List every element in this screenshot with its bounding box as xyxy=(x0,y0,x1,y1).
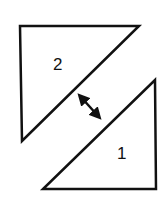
diagram-canvas: 2 1 xyxy=(0,0,168,198)
triangle-2-label: 2 xyxy=(53,55,62,74)
triangle-1-shape xyxy=(43,80,156,189)
triangle-2-shape xyxy=(20,26,139,141)
triangle-1: 1 xyxy=(43,80,156,189)
triangle-2: 2 xyxy=(20,26,139,141)
triangle-1-label: 1 xyxy=(117,144,126,163)
double-arrow-icon xyxy=(80,96,99,117)
